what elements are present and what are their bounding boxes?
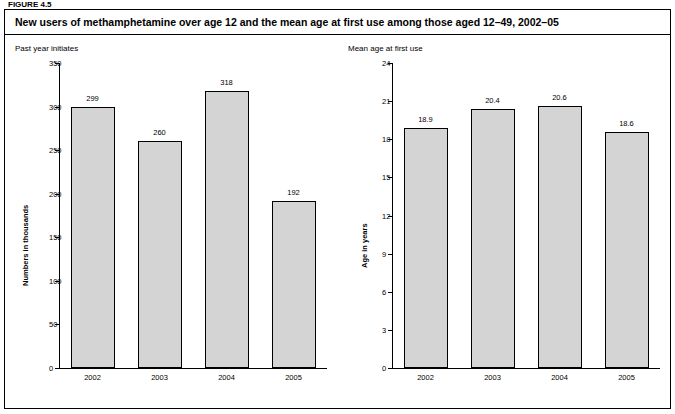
chart-mean-age-first-use: Mean age at first use 0369121518212418.9… xyxy=(340,36,670,408)
y-tick-label: 250 xyxy=(49,146,51,155)
figure-panel: New users of methamphetamine over age 12… xyxy=(4,9,671,409)
x-tick-label: 2002 xyxy=(84,373,101,382)
bar-value-label: 18.9 xyxy=(418,115,433,124)
y-axis-label-left: Numbers in thousands xyxy=(21,205,30,286)
bar xyxy=(272,201,316,368)
y-tick-label: 50 xyxy=(49,320,51,329)
bar-value-label: 318 xyxy=(220,78,233,87)
x-tick-label: 2005 xyxy=(618,373,635,382)
y-tick-label: 350 xyxy=(49,59,51,68)
figure-label: FIGURE 4.5 xyxy=(8,0,52,9)
y-tick-label: 12 xyxy=(382,211,384,220)
y-tick-label: 18 xyxy=(382,135,384,144)
y-tick-label: 200 xyxy=(49,189,51,198)
bar xyxy=(471,109,515,368)
x-tick-label: 2003 xyxy=(484,373,501,382)
bar-value-label: 20.6 xyxy=(552,93,567,102)
y-tick-label: 3 xyxy=(382,325,384,334)
y-axis-right xyxy=(392,63,393,368)
page-title: New users of methamphetamine over age 12… xyxy=(15,16,559,28)
y-tick-label: 9 xyxy=(382,249,384,258)
y-tick-label: 300 xyxy=(49,102,51,111)
y-tick xyxy=(55,368,59,369)
y-tick-label: 150 xyxy=(49,233,51,242)
chart-subtitle-left: Past year initiates xyxy=(15,44,78,53)
y-tick-label: 6 xyxy=(382,287,384,296)
figure-title-bar: New users of methamphetamine over age 12… xyxy=(5,10,670,35)
y-tick-label: 0 xyxy=(382,364,384,373)
x-tick-label: 2003 xyxy=(151,373,168,382)
chart-subtitle-right: Mean age at first use xyxy=(348,44,423,53)
bar-value-label: 260 xyxy=(153,128,166,137)
x-tick-label: 2002 xyxy=(417,373,434,382)
y-axis-label-right: Age in years xyxy=(360,223,369,268)
bar-value-label: 18.6 xyxy=(619,119,634,128)
y-tick xyxy=(388,330,392,331)
y-tick-label: 21 xyxy=(382,97,384,106)
figure-page: FIGURE 4.5 New users of methamphetamine … xyxy=(0,0,675,414)
y-tick-label: 0 xyxy=(49,364,51,373)
bar xyxy=(138,141,182,368)
x-tick-label: 2004 xyxy=(551,373,568,382)
x-tick-label: 2004 xyxy=(218,373,235,382)
y-tick-label: 15 xyxy=(382,173,384,182)
chart-past-year-initiates: Past year initiates 05010015020025030035… xyxy=(7,36,337,408)
bar-value-label: 299 xyxy=(86,94,99,103)
bar xyxy=(205,91,249,368)
x-axis-left xyxy=(59,368,327,369)
x-tick-label: 2005 xyxy=(285,373,302,382)
plot-area-left: 0501001502002503003502992002260200331820… xyxy=(59,63,327,368)
y-tick-label: 100 xyxy=(49,276,51,285)
plot-area-right: 0369121518212418.9200220.4200320.6200418… xyxy=(392,63,660,368)
x-axis-right xyxy=(392,368,660,369)
bar xyxy=(71,107,115,368)
bar-value-label: 20.4 xyxy=(485,96,500,105)
y-tick-label: 24 xyxy=(382,59,384,68)
y-tick xyxy=(388,254,392,255)
bar-value-label: 192 xyxy=(287,188,300,197)
bar xyxy=(605,132,649,368)
y-tick xyxy=(388,292,392,293)
bar xyxy=(404,128,448,368)
y-tick xyxy=(388,368,392,369)
bar xyxy=(538,106,582,368)
